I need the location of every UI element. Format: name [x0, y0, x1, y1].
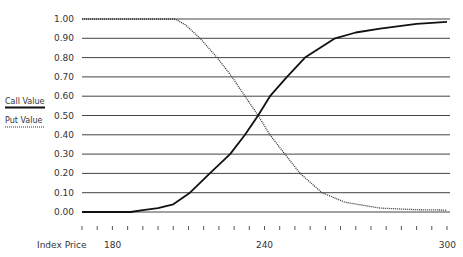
legend: Call Value Put Value	[5, 97, 45, 127]
legend-label-call: Call Value	[5, 97, 45, 106]
y-tick-label: 0.70	[54, 72, 74, 82]
x-axis-ticks: 180240300	[82, 226, 456, 250]
y-tick-label: 0.40	[54, 130, 74, 140]
y-tick-label: 0.50	[54, 111, 74, 121]
series-line-call-value	[82, 22, 447, 212]
series-line-put-value	[82, 19, 447, 210]
x-tick-label: 180	[104, 240, 121, 250]
gridlines	[82, 19, 450, 212]
y-tick-label: 0.00	[54, 207, 74, 217]
option-value-chart: 0.000.100.200.300.400.500.600.700.800.90…	[0, 0, 463, 257]
x-tick-label: 240	[256, 240, 273, 250]
y-tick-label: 0.60	[54, 91, 74, 101]
y-axis-tick-labels: 0.000.100.200.300.400.500.600.700.800.90…	[54, 14, 74, 217]
y-tick-label: 0.20	[54, 168, 74, 178]
x-axis-title: Index Price	[37, 240, 87, 250]
legend-label-put: Put Value	[5, 116, 42, 125]
y-tick-label: 0.90	[54, 33, 74, 43]
y-tick-label: 1.00	[54, 14, 74, 24]
y-tick-label: 0.30	[54, 149, 74, 159]
x-tick-label: 300	[439, 240, 456, 250]
y-tick-label: 0.10	[54, 188, 74, 198]
y-tick-label: 0.80	[54, 53, 74, 63]
